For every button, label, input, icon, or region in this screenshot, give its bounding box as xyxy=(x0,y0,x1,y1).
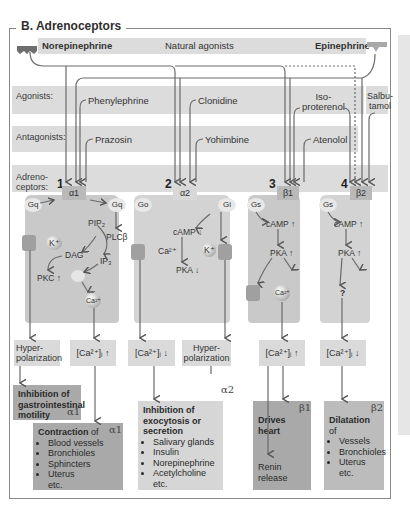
connector-arrows xyxy=(0,0,410,511)
